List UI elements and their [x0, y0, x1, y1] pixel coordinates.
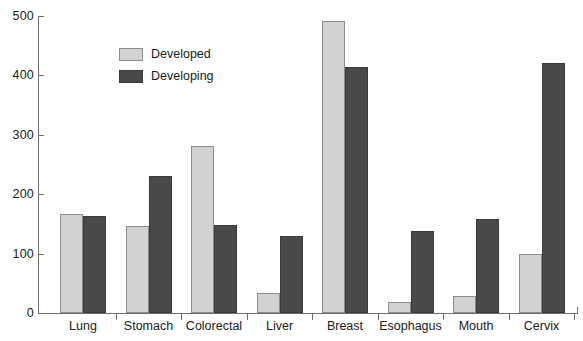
legend: Developed Developing — [119, 45, 214, 89]
bar-stomach-developed — [126, 226, 149, 313]
bar-breast-developing — [345, 67, 368, 313]
bar-mouth-developing — [476, 219, 499, 313]
x-axis-label-cervix: Cervix — [497, 320, 583, 333]
y-tick-200 — [38, 194, 44, 195]
legend-item-developed: Developed — [119, 45, 214, 63]
bar-stomach-developing — [149, 176, 172, 313]
y-tick-label-300: 300 — [4, 129, 34, 142]
bar-colorectal-developing — [214, 225, 237, 313]
y-tick-300 — [38, 135, 44, 136]
bar-lung-developed — [60, 214, 83, 313]
bar-lung-developing — [83, 216, 106, 313]
y-tick-500 — [38, 16, 44, 17]
bar-mouth-developed — [453, 296, 476, 313]
bar-cervix-developing — [542, 63, 565, 313]
bar-chart: 500 400 300 200 100 0 LungStomachColorec… — [0, 0, 583, 341]
bar-esophagus-developed — [388, 302, 411, 313]
legend-label-developed: Developed — [151, 48, 211, 61]
x-axis-line — [38, 313, 578, 314]
bar-cervix-developed — [519, 254, 542, 313]
y-tick-label-0: 0 — [4, 307, 34, 320]
bar-liver-developing — [280, 236, 303, 313]
y-tick-400 — [38, 75, 44, 76]
legend-swatch-developed-icon — [119, 48, 143, 61]
bar-esophagus-developing — [411, 231, 434, 313]
legend-item-developing: Developing — [119, 67, 214, 85]
legend-label-developing: Developing — [151, 70, 214, 83]
bar-breast-developed — [322, 21, 345, 313]
x-axis-cap-left — [38, 307, 39, 314]
bar-liver-developed — [257, 293, 280, 313]
y-tick-label-500: 500 — [4, 10, 34, 23]
y-tick-label-200: 200 — [4, 188, 34, 201]
y-axis-line — [38, 16, 39, 314]
bar-colorectal-developed — [191, 146, 214, 313]
x-axis-cap-right — [577, 307, 578, 314]
y-tick-label-400: 400 — [4, 69, 34, 82]
y-tick-100 — [38, 254, 44, 255]
legend-swatch-developing-icon — [119, 70, 143, 83]
x-tick-7 — [574, 314, 575, 320]
y-tick-label-100: 100 — [4, 248, 34, 261]
